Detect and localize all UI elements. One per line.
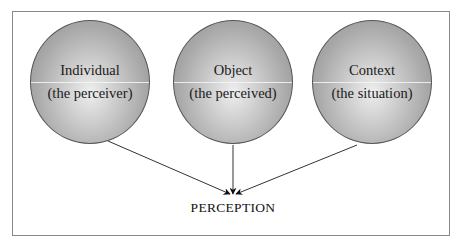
node-title: Context <box>313 62 431 79</box>
result-label-perception: PERCEPTION <box>0 200 458 216</box>
arrow-context-to-perception <box>236 145 357 194</box>
arrow-individual-to-perception <box>108 141 230 194</box>
node-context: Context (the situation) <box>312 20 432 144</box>
node-title: Object <box>174 62 292 79</box>
circle-highlight-line <box>313 82 431 83</box>
node-object: Object (the perceived) <box>173 20 293 144</box>
circle-highlight-line <box>31 82 149 83</box>
node-subtitle: (the perceived) <box>174 85 292 102</box>
node-individual: Individual (the perceiver) <box>30 20 150 144</box>
node-subtitle: (the situation) <box>313 85 431 102</box>
circle-highlight-line <box>174 82 292 83</box>
node-subtitle: (the perceiver) <box>31 85 149 102</box>
node-title: Individual <box>31 62 149 79</box>
